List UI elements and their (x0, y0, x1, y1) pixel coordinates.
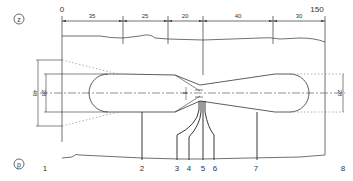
marker-p: p (14, 159, 24, 169)
station-3: 3 (175, 164, 180, 173)
station-8: 8 (341, 164, 346, 173)
axis-end-label: 150 (310, 5, 324, 14)
segment-5-label: 30 (296, 13, 303, 19)
segment-4-label: 40 (235, 13, 242, 19)
marker-z-label: z (17, 16, 21, 23)
marker-p-label: p (17, 161, 21, 169)
station-5: 5 (201, 164, 206, 173)
dim-right: 28 (337, 90, 343, 97)
station-2: 2 (140, 164, 145, 173)
nozzle-drawing: z p 0 150 35 25 20 40 30 (0, 0, 353, 181)
station-4: 4 (187, 164, 192, 173)
bottom-break-line (62, 154, 325, 159)
station-1: 1 (43, 164, 48, 173)
dim-outer-left: 48 (32, 90, 38, 97)
top-break-line (62, 35, 325, 42)
axis-start-label: 0 (60, 5, 65, 14)
segment-1-label: 35 (89, 13, 96, 19)
station-6: 6 (213, 164, 218, 173)
segment-3-label: 20 (182, 13, 189, 19)
segment-2-label: 25 (142, 13, 149, 19)
station-leaders (142, 101, 257, 160)
marker-z: z (14, 14, 24, 24)
dim-inner-left: 28 (41, 90, 47, 97)
dim-throat: 5 (182, 92, 188, 95)
station-7: 7 (254, 164, 259, 173)
